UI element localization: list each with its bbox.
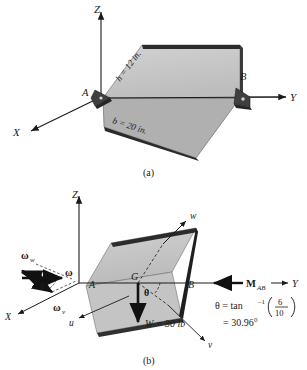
- theta-expression-lhs: θ = tan: [215, 300, 243, 311]
- w-axis-label: w: [190, 211, 197, 221]
- mechanics-figure-svg: Z X Y: [0, 0, 307, 370]
- omega-v-label: ω: [53, 302, 61, 313]
- theta-symbol-omega: θ: [40, 282, 45, 292]
- moment-ab-subscript: AB: [256, 284, 266, 292]
- axis-x-label-b: X: [4, 311, 12, 322]
- axis-z-label-b: Z: [72, 189, 78, 200]
- point-label-a-b: A: [88, 279, 96, 290]
- weight-label: W = 30 lb: [145, 318, 185, 329]
- omega-w-label: ω: [21, 250, 29, 261]
- omega-label: ω: [65, 267, 73, 278]
- plate-a-top-edge: [142, 45, 240, 49]
- panel-b-caption: (b): [143, 355, 155, 367]
- u-axis-label: u: [69, 318, 74, 328]
- fraction-denominator: 10: [275, 308, 284, 318]
- axis-z-label: Z: [94, 3, 101, 15]
- point-label-a: A: [81, 87, 89, 98]
- theta-expression-exponent: –1: [257, 298, 266, 306]
- point-label-b-b: B: [188, 279, 194, 290]
- axis-x-label: X: [12, 126, 21, 138]
- moment-ab-label: M: [246, 278, 256, 289]
- omega-w-subscript: w: [30, 256, 35, 264]
- panel-a-caption: (a): [143, 167, 154, 179]
- fraction-numerator: 6: [278, 297, 282, 307]
- point-label-g: G: [131, 271, 138, 282]
- point-label-b: B: [240, 71, 247, 82]
- figure-root: Z X Y: [0, 0, 307, 370]
- theta-expression-result: = 30.96°: [223, 317, 258, 328]
- theta-symbol-plate: θ: [144, 287, 149, 298]
